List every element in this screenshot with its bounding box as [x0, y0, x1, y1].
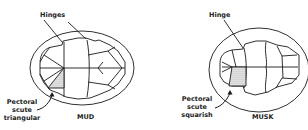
musk-turtle-shell [209, 20, 308, 112]
arrow-head-icon [50, 92, 55, 97]
mud-pectoral-label: Pectoral scute triangular [2, 98, 42, 122]
musk-pectoral-arrow [215, 93, 230, 108]
mud-turtle-shell [30, 20, 134, 105]
musk-pectoral-scute-squarish [229, 67, 246, 86]
turtle-plastron-diagrams [0, 0, 308, 130]
musk-hinge-label: Hinge [209, 11, 230, 19]
musk-pectoral-label: Pectoral scute squarish [177, 95, 217, 119]
musk-title: MUSK [252, 113, 273, 121]
mud-title: MUD [77, 113, 94, 121]
mud-hinges-label: Hinges [40, 11, 65, 19]
arrow-head-icon [228, 90, 233, 95]
mud-pectoral-scute-triangular [48, 68, 64, 88]
